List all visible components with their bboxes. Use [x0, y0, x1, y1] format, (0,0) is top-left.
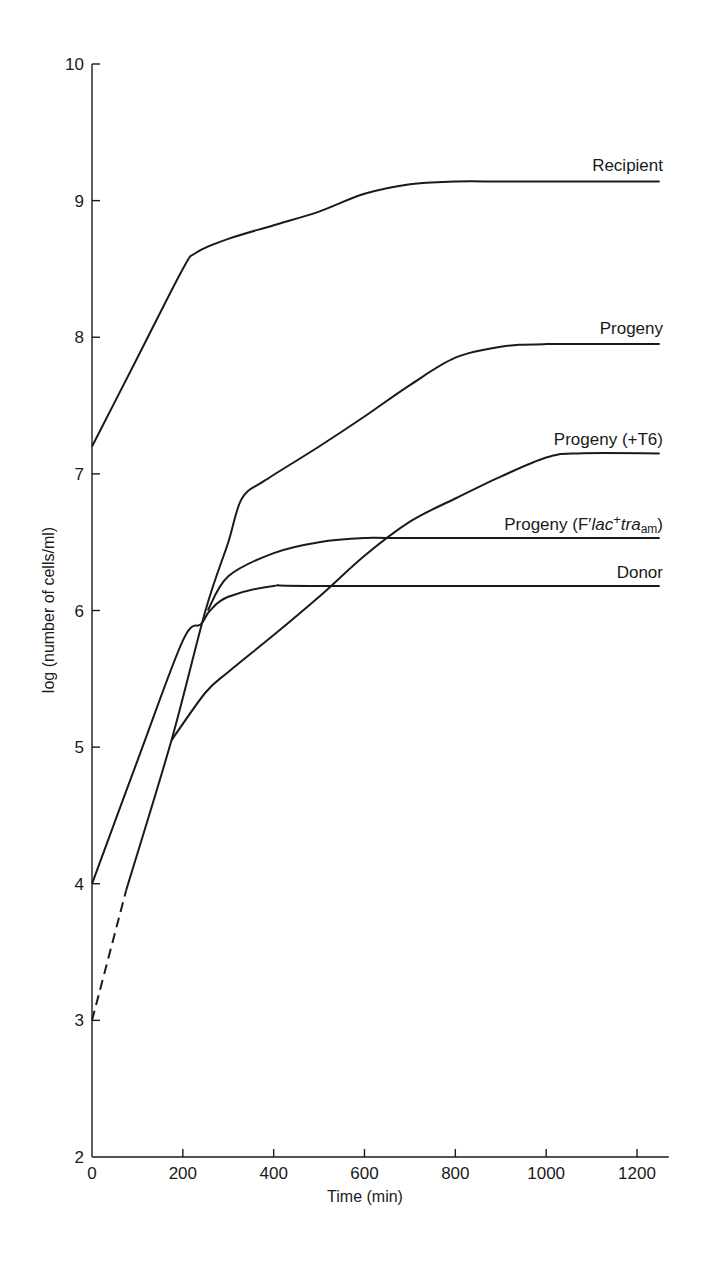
series-line-progeny-f-lac-tra-am — [208, 538, 660, 611]
x-axis-title: Time (min) — [327, 1188, 403, 1205]
series-lines — [92, 181, 660, 1020]
label-progeny-t6: Progeny (+T6) — [554, 430, 663, 449]
y-tick-label: 7 — [75, 465, 84, 484]
y-tick-label: 8 — [75, 328, 84, 347]
x-tick-label: 0 — [87, 1164, 96, 1183]
y-axis-title: log (number of cells/ml) — [40, 527, 57, 693]
x-tick-label: 600 — [350, 1164, 378, 1183]
x-tick-label: 800 — [441, 1164, 469, 1183]
label-recipient: Recipient — [592, 156, 663, 175]
y-tick-label: 3 — [75, 1011, 84, 1030]
axes: 2345678910020040060080010001200 — [65, 55, 669, 1183]
y-tick-label: 4 — [75, 875, 84, 894]
x-tick-label: 200 — [169, 1164, 197, 1183]
y-tick-label: 2 — [75, 1148, 84, 1167]
growth-curve-chart: 2345678910020040060080010001200 Recipien… — [0, 0, 704, 1265]
series-line-recipient — [92, 181, 660, 446]
series-line-progeny-extrapolated — [92, 891, 126, 1021]
y-tick-label: 9 — [75, 192, 84, 211]
label-progeny: Progeny — [600, 319, 664, 338]
x-tick-label: 1200 — [618, 1164, 656, 1183]
y-tick-label: 5 — [75, 738, 84, 757]
label-progeny-flac: Progeny (F′lac+traam) — [504, 512, 663, 536]
y-tick-label: 10 — [65, 55, 84, 74]
x-tick-label: 400 — [259, 1164, 287, 1183]
label-donor: Donor — [617, 563, 664, 582]
series-labels: Recipient Progeny Progeny (+T6) Progeny … — [504, 156, 663, 582]
y-tick-label: 6 — [75, 602, 84, 621]
x-tick-label: 1000 — [527, 1164, 565, 1183]
series-line-donor — [92, 585, 660, 884]
series-line-progeny-t6 — [172, 453, 660, 740]
